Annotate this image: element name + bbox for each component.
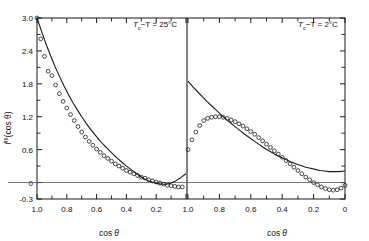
y-axis-tick-label: 1.2	[22, 113, 34, 122]
plot-content: 3.02.41.81.20.60-0.31.00.80.60.40.21.00.…	[8, 14, 348, 214]
data-point	[169, 184, 173, 188]
data-point	[292, 165, 296, 169]
x-axis-left-tick-label: 0.2	[151, 205, 163, 214]
data-point	[327, 188, 331, 192]
data-point	[339, 186, 343, 190]
x-axis-left-tick-label: 1.0	[31, 205, 43, 214]
data-point	[218, 115, 222, 119]
theory-curve-right	[188, 81, 345, 172]
data-point	[304, 175, 308, 179]
data-point	[87, 140, 91, 144]
data-point	[214, 115, 218, 119]
y-axis-tick-label: 0	[29, 179, 34, 188]
data-point	[276, 152, 280, 156]
data-point	[95, 147, 99, 151]
x-axis-label-right-text: cos	[267, 228, 280, 238]
data-point	[84, 135, 88, 139]
data-point	[331, 188, 335, 192]
data-point	[125, 169, 129, 173]
data-point	[65, 106, 69, 110]
data-point	[316, 183, 320, 187]
data-point	[194, 130, 198, 134]
data-point	[202, 119, 206, 123]
panel-title-right-rest: −T = 2°C	[306, 20, 338, 29]
data-point	[237, 122, 241, 126]
data-points-left	[35, 16, 184, 189]
x-axis-right-tick-label: 0.6	[245, 205, 257, 214]
x-axis-right-tick-label: 0.8	[214, 205, 226, 214]
data-point	[288, 162, 292, 166]
x-axis-label-right-var: θ	[282, 228, 287, 238]
data-point	[177, 185, 181, 189]
data-point	[50, 74, 54, 78]
x-axis-right-tick-label: 0.4	[277, 205, 289, 214]
data-point	[245, 127, 249, 131]
data-point	[308, 178, 312, 182]
data-point	[43, 54, 47, 58]
data-point	[117, 164, 121, 168]
x-axis-label-left: cosθ	[99, 228, 119, 238]
data-point	[210, 115, 214, 119]
svg-text:cosθ: cosθ	[267, 228, 287, 238]
data-point	[102, 154, 106, 158]
panel-title-right: Tc−T = 2°C	[298, 20, 338, 31]
data-point	[261, 139, 265, 143]
svg-text:Tc−T = 25°C: Tc−T = 25°C	[133, 20, 177, 31]
scientific-figure: fIII(cos θ) 3.02.41.81.20.60-0.31.00.80.…	[0, 0, 369, 241]
panel-title-left-rest: −T = 25°C	[141, 20, 178, 29]
x-axis-left-tick-label: 0.4	[121, 205, 133, 214]
data-point	[296, 169, 300, 173]
x-axis-left-tick-label: 0.6	[91, 205, 103, 214]
x-axis-right-tick-label: 1.0	[182, 205, 194, 214]
y-axis-tick-label: 1.8	[22, 80, 34, 89]
data-point	[265, 142, 269, 146]
x-axis-right-tick-label: 0	[343, 205, 348, 214]
data-point	[110, 159, 114, 163]
data-point	[80, 130, 84, 134]
data-point	[72, 119, 76, 123]
y-axis-label: fIII(cos θ)	[3, 111, 14, 144]
x-axis-label-right: cosθ	[267, 228, 287, 238]
x-axis-label-left-text: cos	[99, 228, 112, 238]
data-point	[300, 172, 304, 176]
data-point	[257, 136, 261, 140]
figure-container: fIII(cos θ) 3.02.41.81.20.60-0.31.00.80.…	[0, 0, 369, 241]
data-point	[190, 138, 194, 142]
data-point	[323, 187, 327, 191]
y-axis-label-arg: (cos θ)	[3, 111, 13, 137]
data-point	[121, 166, 125, 170]
svg-text:cosθ: cosθ	[99, 228, 119, 238]
data-point	[46, 69, 50, 73]
data-point	[39, 37, 43, 41]
x-axis-right-tick-label: 0.2	[308, 205, 320, 214]
panel-title-left: Tc−T = 25°C	[133, 20, 177, 31]
data-point	[233, 120, 237, 124]
data-point	[241, 124, 245, 128]
data-point	[269, 146, 273, 150]
data-point	[229, 118, 233, 122]
data-point	[69, 113, 73, 117]
svg-text:Tc−T = 2°C: Tc−T = 2°C	[298, 20, 338, 31]
data-point	[173, 184, 177, 188]
data-point	[98, 150, 102, 154]
y-axis-tick-label: 2.4	[22, 47, 34, 56]
data-point	[61, 99, 65, 103]
y-axis-tick-label: 0.6	[22, 146, 34, 155]
data-points-right	[186, 115, 347, 192]
x-axis-left-tick-label: 0.8	[61, 205, 73, 214]
data-point	[335, 188, 339, 192]
data-point	[106, 157, 110, 161]
x-axis-label-left-var: θ	[114, 228, 119, 238]
data-point	[91, 143, 95, 147]
data-point	[57, 92, 61, 96]
data-point	[320, 185, 324, 189]
svg-text:fIII(cos θ): fIII(cos θ)	[3, 111, 14, 144]
data-point	[198, 124, 202, 128]
data-point	[113, 162, 117, 166]
data-point	[253, 132, 257, 136]
y-axis-tick-label: -0.3	[19, 195, 33, 204]
data-point	[272, 149, 276, 153]
data-point	[206, 116, 210, 120]
data-point	[76, 125, 80, 129]
data-point	[128, 170, 132, 174]
